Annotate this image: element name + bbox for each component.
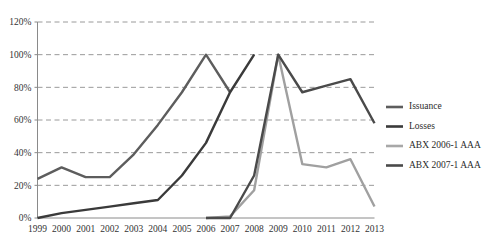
legend-label: Losses (409, 121, 435, 131)
x-axis-tick-label: 1999 (28, 224, 47, 234)
x-axis-tick-label: 2002 (100, 224, 119, 234)
x-axis-tick-label: 2008 (245, 224, 264, 234)
y-axis-tick-label: 120% (9, 17, 31, 27)
x-axis-tick-label: 2011 (317, 224, 336, 234)
chart-legend: IssuanceLossesABX 2006-1 AAAABX 2007-1 A… (386, 101, 481, 170)
y-axis-tick-label: 20% (14, 181, 32, 191)
chart-axes (35, 22, 375, 218)
line-chart: 120%100%80%60%40%20%0% 19992000200120022… (0, 0, 494, 244)
data-series (38, 55, 375, 218)
legend-label: ABX 2007-1 AAA (409, 160, 481, 170)
x-axis-tick-label: 2000 (52, 224, 71, 234)
y-axis-tick-labels: 120%100%80%60%40%20%0% (9, 17, 31, 223)
y-axis-tick-label: 0% (19, 213, 32, 223)
y-axis-tick-label: 40% (14, 148, 32, 158)
x-axis-tick-label: 2010 (293, 224, 312, 234)
y-axis-tick-label: 80% (14, 83, 32, 93)
legend-label: ABX 2006-1 AAA (409, 140, 481, 150)
x-axis-tick-label: 2012 (341, 224, 360, 234)
chart-container: 120%100%80%60%40%20%0% 19992000200120022… (0, 0, 494, 244)
x-axis-tick-label: 2001 (76, 224, 95, 234)
gridlines (38, 22, 375, 185)
x-axis-tick-label: 2013 (365, 224, 384, 234)
x-axis-tick-labels: 1999200020012002200320042005200620072008… (28, 224, 384, 234)
x-axis-tick-label: 2006 (197, 224, 216, 234)
y-axis-tick-label: 60% (14, 115, 32, 125)
x-axis-tick-label: 2004 (148, 224, 167, 234)
series-line (206, 55, 375, 218)
x-axis-tick-label: 2009 (269, 224, 288, 234)
y-axis-tick-label: 100% (9, 50, 31, 60)
x-axis-tick-label: 2007 (221, 224, 240, 234)
x-axis-tick-label: 2005 (172, 224, 191, 234)
x-axis-tick-label: 2003 (124, 224, 143, 234)
series-line (38, 55, 231, 179)
legend-label: Issuance (409, 101, 442, 111)
